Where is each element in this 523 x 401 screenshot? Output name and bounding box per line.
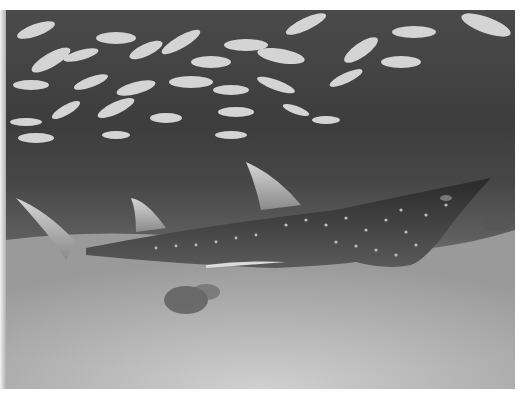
second-dorsal-fin xyxy=(131,198,166,232)
underwater-photo xyxy=(6,10,515,389)
school-of-fish xyxy=(10,10,513,143)
scene xyxy=(6,10,515,389)
spotted-wedgefish xyxy=(16,162,491,268)
first-dorsal-fin xyxy=(246,162,301,210)
eye xyxy=(440,195,452,201)
